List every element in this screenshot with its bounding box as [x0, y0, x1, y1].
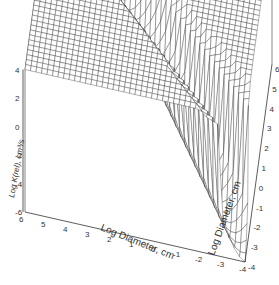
surface-cell — [64, 73, 70, 79]
surface-cell — [179, 100, 185, 106]
surface-cell — [190, 102, 196, 108]
surface-cell — [141, 91, 147, 97]
x-tick-label: 4 — [63, 225, 68, 234]
y-tick-label: -4 — [248, 263, 256, 272]
surface-cell — [163, 96, 169, 102]
surface-cell — [124, 87, 130, 93]
surface-cell — [174, 98, 180, 104]
surface-cell — [69, 75, 75, 81]
surface-cell — [219, 60, 225, 68]
surface-cell — [36, 67, 42, 73]
y-tick-label: 6 — [275, 65, 279, 74]
surface-cell — [58, 72, 64, 78]
surface-cell — [113, 85, 119, 91]
x-tick-label: 3 — [85, 230, 90, 239]
y-tick-label: 1 — [262, 164, 267, 173]
surface-cell — [102, 82, 108, 88]
surface-cell — [42, 68, 48, 74]
surface-cell — [119, 86, 125, 92]
surface-cell — [244, 91, 250, 99]
z-tick-label: 4 — [15, 66, 20, 75]
surface-cell — [108, 83, 114, 89]
surface-cell — [31, 66, 37, 72]
surface-cell — [185, 101, 191, 107]
surface-cell — [211, 30, 217, 36]
x-tick-label: -3 — [217, 260, 225, 269]
surface-cell — [80, 77, 86, 83]
x-tick-label: -4 — [239, 265, 247, 274]
surface-cell — [215, 54, 221, 62]
y-tick-label: -2 — [253, 223, 261, 232]
z-tick-label: 2 — [15, 94, 20, 103]
y-tick-label: -3 — [251, 243, 259, 252]
y-tick-label: 3 — [267, 124, 272, 133]
y-tick-label: 0 — [259, 184, 264, 193]
surface-cell — [130, 88, 136, 94]
surface-cell — [91, 80, 97, 86]
y-tick-label: 5 — [272, 85, 277, 94]
surface-mesh — [25, 0, 272, 262]
y-tick-label: 4 — [270, 105, 275, 114]
surface-cell — [53, 71, 59, 77]
surface-cell — [239, 85, 245, 93]
surface-cell — [240, 252, 246, 262]
surface-cell — [47, 70, 53, 76]
surface-cell — [135, 90, 141, 96]
surface-cell — [224, 67, 230, 75]
surface-cell — [146, 92, 152, 98]
surface-cell — [97, 81, 103, 87]
z-tick-label: 0 — [15, 123, 20, 132]
y-tick-label: 2 — [264, 144, 269, 153]
x-tick-label: 5 — [41, 220, 46, 229]
surface-cell — [229, 73, 235, 81]
surface-cell — [152, 93, 158, 99]
surface-cell — [75, 76, 81, 82]
y-tick-label: -1 — [256, 204, 264, 213]
surface-cell — [86, 78, 92, 84]
surface-cell — [157, 95, 163, 101]
z-tick-label: -6 — [15, 208, 23, 217]
surface-cell — [25, 65, 31, 71]
surface-cell — [168, 97, 174, 103]
surface-plot: 6543210-1-2-3-4-4-3-2-10123456-6-4-2024 … — [0, 0, 279, 285]
x-tick-label: -2 — [195, 255, 203, 264]
surface-cell — [234, 79, 240, 87]
